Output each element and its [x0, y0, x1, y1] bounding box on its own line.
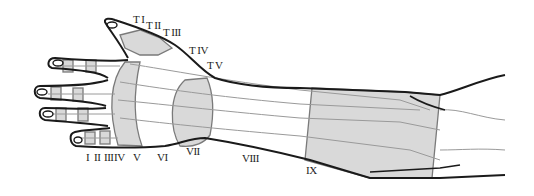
zone-label-t2: T II	[146, 20, 161, 31]
middle-nail	[37, 89, 47, 95]
index-nail	[53, 60, 63, 66]
zone-label-5: V	[133, 152, 140, 163]
zone-vii-shade	[172, 78, 212, 146]
little-nail	[74, 137, 82, 143]
zone-v-shade	[112, 62, 142, 146]
zone-label-3: III	[104, 152, 114, 163]
middle-finger-outline	[35, 80, 108, 106]
zone-label-4: IV	[114, 152, 125, 163]
zone-label-t3: T III	[163, 27, 181, 38]
extensor-zone-diagram: T I T II T III T IV T V I II III IV V VI…	[0, 0, 534, 196]
zone-label-t5: T V	[207, 60, 223, 71]
zone-label-t4: T IV	[189, 45, 208, 56]
zone-label-t1: T I	[133, 14, 144, 25]
zone-label-7: VII	[186, 146, 200, 157]
zone-label-6: VI	[157, 152, 168, 163]
hand-forearm-illustration	[0, 0, 534, 196]
thumb-nail	[107, 22, 117, 28]
zone-label-9: IX	[306, 165, 317, 176]
ring-nail	[43, 111, 53, 117]
zone-label-2: II	[94, 152, 100, 163]
zone-label-1: I	[86, 152, 89, 163]
zone-label-8: VIII	[242, 153, 259, 164]
